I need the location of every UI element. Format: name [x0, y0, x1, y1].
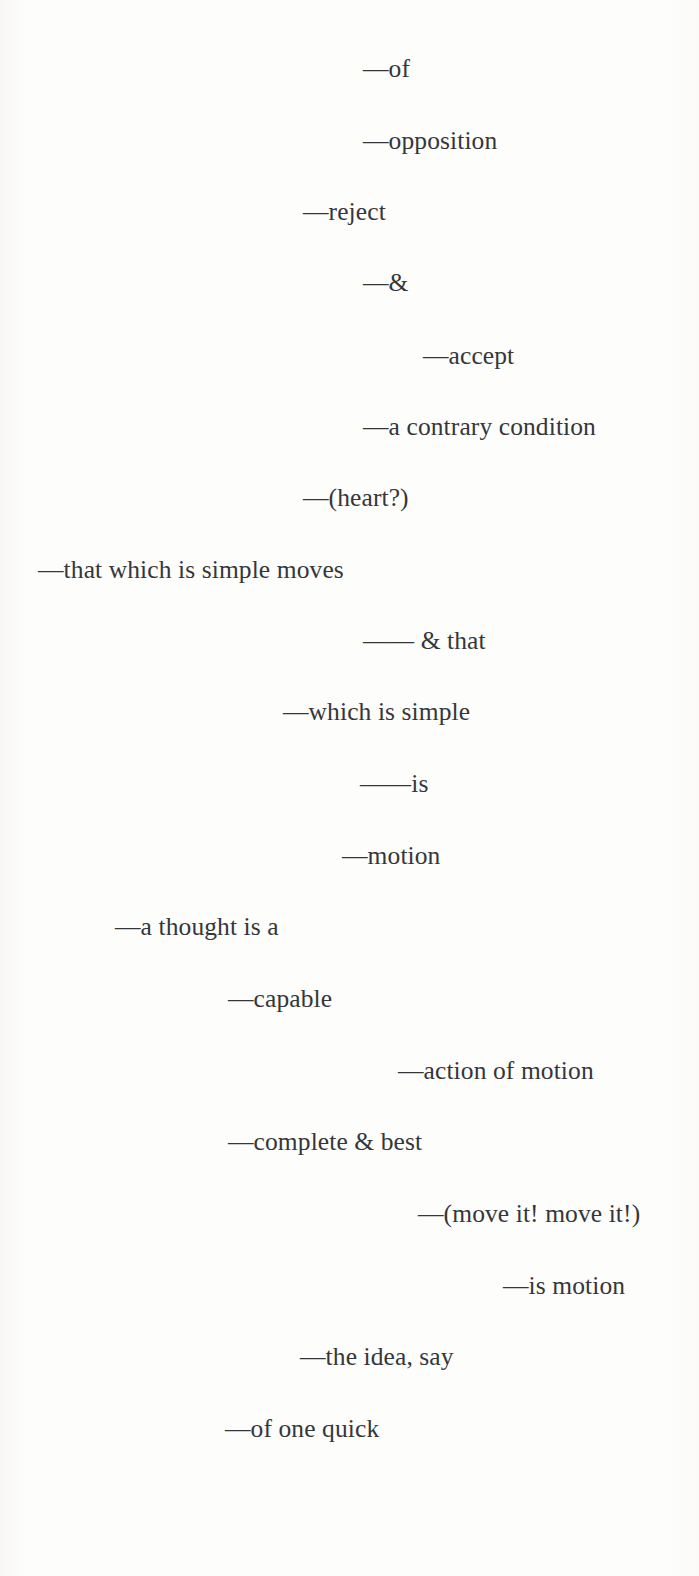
poem-line: —complete & best: [228, 1129, 422, 1155]
poem-line: —opposition: [363, 128, 497, 154]
poem-line: —motion: [342, 843, 440, 869]
poem-line: —a thought is a: [115, 914, 279, 940]
poem-line: —accept: [423, 343, 514, 369]
poem-line: ——is: [360, 771, 428, 797]
poem-body: —of—opposition—reject—&—accept—a contrar…: [0, 0, 699, 1576]
poem-line: —(heart?): [303, 485, 409, 511]
poem-line: —of one quick: [225, 1416, 379, 1442]
poem-page: —of—opposition—reject—&—accept—a contrar…: [0, 0, 699, 1576]
poem-line: —that which is simple moves: [38, 557, 344, 583]
poem-line: —(move it! move it!): [418, 1201, 640, 1227]
poem-line: —&: [363, 270, 409, 296]
poem-line: —which is simple: [283, 699, 470, 725]
poem-line: —reject: [303, 199, 386, 225]
poem-line: —is motion: [503, 1273, 625, 1299]
poem-line: —the idea, say: [300, 1344, 454, 1370]
poem-line: —action of motion: [398, 1058, 594, 1084]
poem-line: —of: [363, 56, 410, 82]
poem-line: —capable: [228, 986, 332, 1012]
poem-line: —a contrary condition: [363, 414, 596, 440]
poem-line: —— & that: [363, 628, 486, 654]
